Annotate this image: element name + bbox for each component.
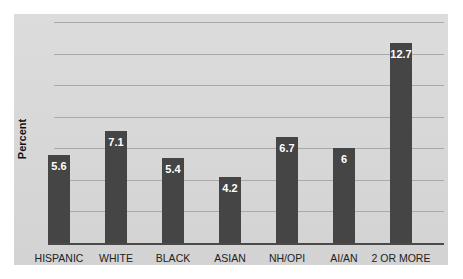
gridline bbox=[54, 22, 444, 23]
bar-value-label: 5.6 bbox=[42, 160, 76, 172]
gridline bbox=[54, 117, 444, 118]
bar-value-label: 6.7 bbox=[270, 142, 304, 154]
bar: 12.7 bbox=[390, 43, 412, 243]
bar-value-label: 5.4 bbox=[156, 163, 190, 175]
gridline bbox=[54, 85, 444, 86]
bar-value-label: 7.1 bbox=[99, 136, 133, 148]
bar: 6.7 bbox=[276, 137, 298, 243]
bar: 5.4 bbox=[162, 158, 184, 243]
bar-value-label: 4.2 bbox=[213, 182, 247, 194]
category-label: 2 OR MORE bbox=[361, 252, 441, 264]
bar: 6 bbox=[333, 148, 355, 243]
y-axis-label: Percent bbox=[16, 119, 28, 159]
bar-value-label: 6 bbox=[327, 153, 361, 165]
plot-area: 5.6HISPANIC7.1WHITE5.4BLACK4.2ASIAN6.7NH… bbox=[54, 22, 444, 243]
x-axis-baseline bbox=[48, 243, 444, 245]
bar: 7.1 bbox=[105, 131, 127, 243]
bar: 5.6 bbox=[48, 155, 70, 243]
chart-panel: 5.6HISPANIC7.1WHITE5.4BLACK4.2ASIAN6.7NH… bbox=[14, 14, 448, 265]
bar: 4.2 bbox=[219, 177, 241, 243]
bar-value-label: 12.7 bbox=[384, 48, 418, 60]
